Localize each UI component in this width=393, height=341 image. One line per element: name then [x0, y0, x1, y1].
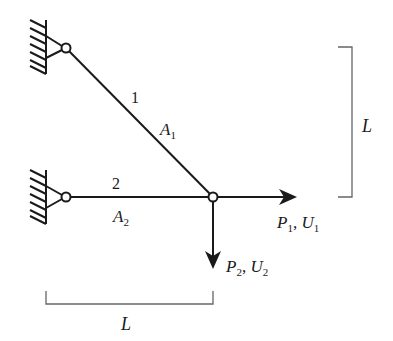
horizontal-dimension-label: L [120, 314, 131, 334]
vertical-dimension [338, 47, 352, 197]
bottom-pin-support [30, 170, 62, 224]
load-arrow-p2 [205, 197, 221, 269]
load-p2-label: P2, U2 [225, 257, 268, 278]
member-1 [66, 48, 213, 197]
member-1-label: 1 [131, 89, 139, 106]
truss-diagram: 1 A1 2 A2 P1, U1 P2, U2 L L [0, 0, 393, 341]
top-pin-support [30, 20, 62, 74]
free-node-hinge [209, 193, 218, 202]
bottom-pin-hinge [62, 193, 71, 202]
member-2-area-label: A2 [112, 207, 129, 228]
member-1-area-label: A1 [159, 120, 176, 141]
member-2-label: 2 [112, 175, 120, 192]
vertical-dimension-label: L [361, 116, 372, 136]
top-pin-hinge [62, 44, 71, 53]
horizontal-dimension [46, 291, 213, 304]
load-p1-label: P1, U1 [276, 213, 319, 234]
load-arrow-p1 [213, 189, 297, 205]
